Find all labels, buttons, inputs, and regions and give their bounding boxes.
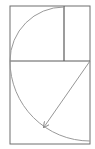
radius-arrow xyxy=(44,61,90,127)
golden-ratio-diagram xyxy=(0,0,95,149)
lower-quarter-arc xyxy=(10,61,90,141)
upper-quarter-arc xyxy=(10,7,64,61)
